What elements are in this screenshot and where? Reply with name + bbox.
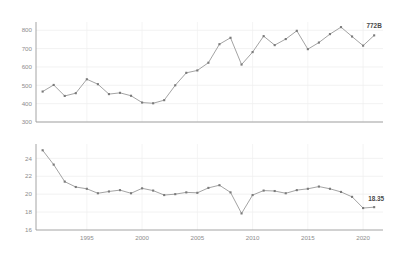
data-point-marker	[86, 188, 88, 190]
y-axis-tick-label: 24	[25, 155, 32, 162]
data-series-line	[43, 27, 375, 103]
y-axis-tick-label: 16	[25, 226, 32, 233]
data-point-marker	[53, 84, 55, 86]
data-point-marker	[274, 44, 276, 46]
data-point-marker	[296, 30, 298, 32]
data-point-marker	[329, 33, 331, 35]
data-point-marker	[340, 191, 342, 193]
data-point-marker	[218, 184, 220, 186]
x-axis-tick-label: 1995	[80, 234, 94, 241]
data-point-marker	[130, 192, 132, 194]
data-point-marker	[152, 102, 154, 104]
chart-panel-bottom: 161820222419952000200520102015202018.35	[0, 132, 395, 265]
x-axis-tick-label: 2000	[135, 234, 149, 241]
data-point-marker	[174, 84, 176, 86]
data-point-marker	[185, 191, 187, 193]
data-point-marker	[163, 194, 165, 196]
data-point-marker	[141, 187, 143, 189]
chart-panel-top: 300400500600700800772B	[0, 0, 395, 133]
data-point-marker	[318, 42, 320, 44]
data-point-marker	[163, 99, 165, 101]
y-axis-tick-label: 800	[22, 26, 33, 33]
data-point-marker	[263, 35, 265, 37]
data-point-marker	[97, 83, 99, 85]
data-point-marker	[274, 190, 276, 192]
data-point-marker	[329, 188, 331, 190]
data-point-marker	[42, 149, 44, 151]
data-point-marker	[285, 192, 287, 194]
data-point-marker	[307, 188, 309, 190]
y-axis-tick-label: 18	[25, 208, 32, 215]
data-point-marker	[119, 189, 121, 191]
data-point-marker	[263, 190, 265, 192]
value-annotation: 772B	[367, 22, 383, 29]
data-point-marker	[207, 62, 209, 64]
line-chart-top: 300400500600700800772B	[0, 0, 395, 133]
y-axis-tick-label: 400	[22, 100, 33, 107]
data-point-marker	[285, 38, 287, 40]
data-point-marker	[119, 92, 121, 94]
y-axis-tick-label: 300	[22, 118, 33, 125]
data-point-marker	[318, 186, 320, 188]
chart-figure: 300400500600700800772B 16182022241995200…	[0, 0, 395, 265]
data-point-marker	[53, 164, 55, 166]
data-point-marker	[185, 72, 187, 74]
data-point-marker	[75, 92, 77, 94]
data-point-marker	[252, 51, 254, 53]
data-point-marker	[130, 95, 132, 97]
y-axis-tick-label: 20	[25, 190, 32, 197]
y-axis-tick-label: 600	[22, 63, 33, 70]
y-axis-tick-label: 22	[25, 172, 32, 179]
data-point-marker	[141, 102, 143, 104]
data-point-marker	[296, 189, 298, 191]
x-axis-tick-label: 2010	[246, 234, 260, 241]
data-point-marker	[351, 196, 353, 198]
y-axis-tick-label: 700	[22, 45, 33, 52]
data-point-marker	[252, 194, 254, 196]
y-axis-tick-label: 500	[22, 82, 33, 89]
x-axis-tick-label: 2015	[301, 234, 315, 241]
x-axis-tick-label: 2020	[356, 234, 370, 241]
data-point-marker	[241, 64, 243, 66]
data-point-marker	[97, 192, 99, 194]
data-point-marker	[42, 90, 44, 92]
data-point-marker	[229, 37, 231, 39]
data-point-marker	[362, 207, 364, 209]
data-point-marker	[174, 193, 176, 195]
data-point-marker	[229, 191, 231, 193]
data-point-marker	[241, 212, 243, 214]
data-point-marker	[108, 190, 110, 192]
data-point-marker	[373, 206, 375, 208]
line-chart-bottom: 161820222419952000200520102015202018.35	[0, 132, 395, 265]
data-point-marker	[351, 35, 353, 37]
data-point-marker	[196, 69, 198, 71]
x-axis-tick-label: 2005	[190, 234, 204, 241]
data-series-line	[43, 150, 375, 213]
data-point-marker	[75, 186, 77, 188]
data-point-marker	[64, 95, 66, 97]
data-point-marker	[108, 93, 110, 95]
data-point-marker	[64, 181, 66, 183]
data-point-marker	[207, 187, 209, 189]
data-point-marker	[362, 45, 364, 47]
value-annotation: 18.35	[368, 195, 384, 202]
data-point-marker	[218, 43, 220, 45]
data-point-marker	[152, 190, 154, 192]
data-point-marker	[196, 192, 198, 194]
data-point-marker	[86, 78, 88, 80]
data-point-marker	[307, 48, 309, 50]
data-point-marker	[340, 26, 342, 28]
data-point-marker	[373, 34, 375, 36]
